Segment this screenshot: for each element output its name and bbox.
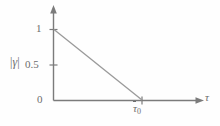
- y-tick-label-0-5: 0.5: [25, 59, 39, 70]
- x-tick-label-tau-zero: τ0: [133, 103, 141, 116]
- y-axis-arrow-icon: [50, 5, 57, 14]
- y-axis-title-right-bar: |: [17, 55, 19, 69]
- x-tick-label-tau-base: τ: [133, 103, 137, 114]
- x-axis-arrow-icon: [196, 97, 205, 104]
- y-axis-title: |γ|: [10, 56, 20, 68]
- x-tick-label-tau-subscript: 0: [137, 107, 141, 116]
- x-axis-title: τ: [205, 92, 209, 103]
- y-tick-label-0: 0: [37, 94, 43, 105]
- y-tick-label-1: 1: [36, 23, 42, 34]
- data-series-line: [54, 30, 142, 101]
- figure-container: 1 0.5 0 τ0 |γ| τ: [0, 0, 220, 126]
